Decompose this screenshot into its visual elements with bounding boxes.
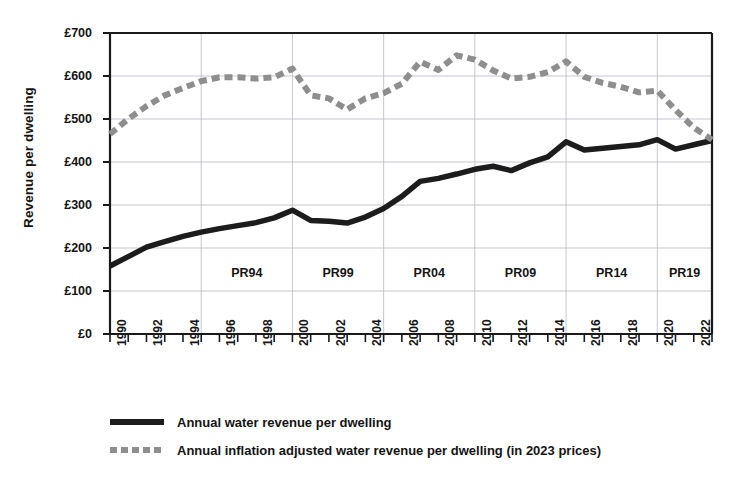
series-line-2 [110,55,712,139]
legend-item-solid: Annual water revenue per dwelling [110,408,730,436]
legend-label-dashed: Annual inflation adjusted water revenue … [177,443,601,458]
chart-legend: Annual water revenue per dwelling Annual… [110,408,730,464]
chart-figure: Revenue per dwelling £0£100£200£300£400£… [0,0,743,484]
legend-swatch-solid-icon [110,415,164,429]
legend-swatch-dashed-icon [110,443,164,457]
series-line-1 [110,140,712,266]
legend-item-dashed: Annual inflation adjusted water revenue … [110,436,730,464]
legend-label-solid: Annual water revenue per dwelling [177,415,392,430]
